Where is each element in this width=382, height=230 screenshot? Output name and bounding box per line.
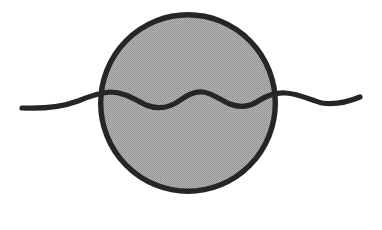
figure-canvas: Wavy line through shaded circle A hand-d… [0,0,382,230]
figure-illustration: Wavy line through shaded circle A hand-d… [0,0,382,230]
